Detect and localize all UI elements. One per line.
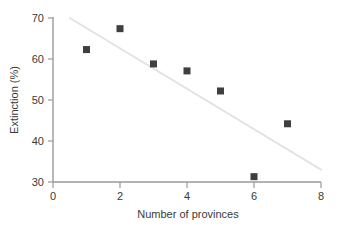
x-axis-ticks (53, 182, 321, 188)
y-tick-label: 60 (32, 53, 44, 65)
x-tick-label: 6 (251, 190, 257, 202)
y-tick-label: 50 (32, 94, 44, 106)
data-point-marker (117, 25, 124, 32)
y-tick-label: 40 (32, 135, 44, 147)
data-point-markers (83, 25, 291, 180)
data-point-marker (284, 120, 291, 127)
data-point-marker (83, 46, 90, 53)
data-point-marker (150, 60, 157, 67)
y-tick-label: 30 (32, 176, 44, 188)
x-tick-label: 8 (318, 190, 324, 202)
x-tick-label: 2 (117, 190, 123, 202)
chart-canvas: 30 40 50 60 70 0 2 4 6 8 Number of provi… (0, 0, 338, 230)
data-point-marker (217, 87, 224, 94)
x-tick-label: 0 (50, 190, 56, 202)
y-axis-tick-labels: 30 40 50 60 70 (32, 12, 44, 188)
scatter-chart: 30 40 50 60 70 0 2 4 6 8 Number of provi… (0, 0, 338, 230)
x-axis-tick-labels: 0 2 4 6 8 (50, 190, 324, 202)
y-axis-ticks (48, 18, 53, 182)
y-tick-label: 70 (32, 12, 44, 24)
data-point-marker (184, 67, 191, 74)
x-axis-title: Number of provinces (137, 208, 239, 220)
y-axis-title: Extinction (%) (8, 66, 20, 134)
x-tick-label: 4 (184, 190, 190, 202)
regression-line (70, 18, 321, 170)
data-point-marker (251, 173, 258, 180)
